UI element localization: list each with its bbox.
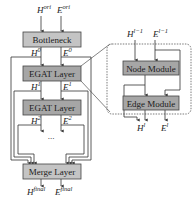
egat1-to-egat2-arrows [14,81,88,163]
detail-input-h-label: Hl−1 [126,27,143,39]
output-h-label: Hfinal [26,185,46,197]
bottleneck-label: Bottleneck [33,35,72,45]
egat-architecture-diagram: Hori Eori Bottleneck H0 E0 EGAT Layer H1… [0,0,194,197]
input-arrows [41,16,61,31]
detail-input-e-label: El−1 [152,27,168,39]
egat-layer-2-label: EGAT Layer [29,103,75,113]
output-e-label: Efinal [54,185,73,197]
detail-output-e-label: El [160,121,169,133]
zoom-connector-lines [81,44,110,112]
e0-label: E0 [62,46,73,58]
h0-label: H0 [30,46,42,58]
node-module-label: Node Module [126,64,176,74]
input-h-label: Hori [36,3,51,15]
h2-label: H2 [30,114,42,126]
merge-layer-label: Merge Layer [29,167,76,177]
e2-label: E2 [62,114,73,126]
edge-module-label: Edge Module [127,99,176,109]
input-e-label: Eori [56,3,70,15]
ellipsis: ... [48,131,55,141]
egat-layer-1-label: EGAT Layer [29,69,75,79]
h1-label: H1 [30,80,41,92]
e1-label: E1 [62,80,72,92]
detail-output-h-label: Hl [136,121,146,133]
